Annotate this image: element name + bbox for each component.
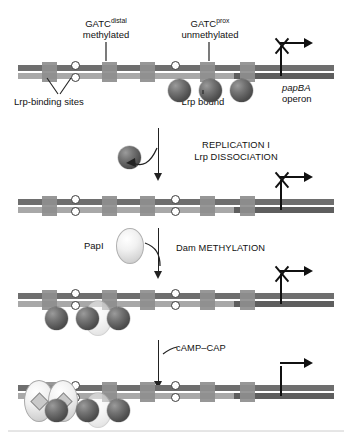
step-3-arrow-shaft — [158, 340, 159, 384]
gatc-distal-superscript: distal — [111, 17, 127, 24]
lrp-protein-r1-3 — [230, 79, 253, 102]
lrp-site-4 — [200, 290, 215, 310]
lrp-site-3 — [140, 290, 155, 310]
gatc-distal-top-circle — [71, 289, 80, 298]
gatc-prox-bottom-circle — [171, 301, 180, 310]
promoter-stem — [280, 274, 282, 304]
lrp-binding-sites-label: Lrp-binding sites — [14, 96, 84, 107]
step-1-arrow-head — [154, 173, 162, 181]
gatc-prox-name: GATC — [191, 18, 217, 29]
lrp-site-2 — [102, 62, 117, 82]
promoter-silenced-row-3 — [280, 270, 324, 304]
promoter-arm — [280, 362, 306, 364]
gatc-prox-state: unmethylated — [181, 29, 238, 40]
gatc-distal-top-circle — [71, 195, 80, 204]
step-label-methylation: Dam METHYLATION — [176, 243, 296, 255]
lrp-protein-r4-1 — [45, 399, 68, 422]
gatc-prox-bottom-circle — [171, 207, 180, 216]
figure-canvas: GATCdistal methylated GATCprox unmethyla… — [0, 0, 352, 436]
gatc-prox-superscript: prox — [216, 17, 229, 24]
gatc-prox-bottom-circle — [171, 393, 180, 402]
step-2-arrow-shaft — [158, 228, 159, 274]
lrp-protein-r3-2 — [76, 307, 99, 330]
gatc-distal-label: GATCdistal methylated — [58, 18, 154, 40]
lrp-site-5 — [240, 290, 255, 310]
gatc-prox-top-circle — [171, 61, 180, 70]
step-1-line-2: Lrp DISSOCIATION — [194, 152, 278, 162]
lrp-site-4 — [200, 382, 215, 402]
gatc-distal-bottom-circle — [71, 73, 80, 82]
promoter-arrowhead — [304, 266, 313, 276]
lrp-site-1 — [42, 62, 57, 82]
camp-cap-leader — [163, 347, 177, 354]
promoter-arrowhead — [304, 172, 313, 182]
promoter-arrowhead — [304, 38, 313, 48]
lrp-protein-r4-2 — [76, 399, 99, 422]
gatc-distal-name: GATC — [85, 18, 111, 29]
operon-name: papBA — [282, 82, 311, 93]
promoter-arrowhead — [304, 358, 313, 368]
lrp-site-2 — [102, 196, 117, 216]
papi-protein — [116, 228, 144, 264]
gatc-distal-bottom-circle — [71, 301, 80, 310]
lrp-protein-r4-3 — [107, 399, 130, 422]
lrp-protein-dissociated — [118, 146, 141, 169]
promoter-stem — [280, 46, 282, 76]
lrp-site-3 — [140, 196, 155, 216]
step-label-camp-cap: cAMP–CAP — [176, 343, 266, 355]
operon-word: operon — [282, 93, 312, 104]
gatc-prox-label: GATCprox unmethylated — [158, 18, 262, 40]
lrp-site-3 — [140, 382, 155, 402]
gatc-distal-bottom-circle — [71, 207, 80, 216]
gatc-prox-top-circle — [171, 381, 180, 390]
papi-label: PapI — [84, 240, 104, 251]
lrp-protein-r3-1 — [45, 307, 68, 330]
gatc-distal-state: methylated — [83, 29, 129, 40]
lrp-site-1 — [42, 196, 57, 216]
lrp-site-5 — [240, 196, 255, 216]
lrp-site-5 — [240, 382, 255, 402]
promoter-active-row-4 — [280, 362, 324, 396]
step-2-arrow-head — [154, 271, 162, 279]
step-label-replication: REPLICATION I Lrp DISSOCIATION — [168, 140, 304, 163]
step-1-arrow-shaft — [158, 128, 159, 176]
lrp-protein-r3-3 — [107, 307, 130, 330]
gatc-prox-top-circle — [171, 289, 180, 298]
promoter-stem — [280, 366, 282, 396]
promoter-silenced-row-2 — [280, 176, 324, 210]
gatc-distal-top-circle — [71, 61, 80, 70]
lrp-site-3 — [140, 62, 155, 82]
promoter-silenced-row-1 — [280, 42, 324, 76]
operon-label: papBA operon — [282, 82, 312, 104]
step-1-line-1: REPLICATION I — [202, 140, 270, 150]
lrp-protein-r1-1 — [168, 79, 191, 102]
lrp-protein-r1-2 — [199, 79, 222, 102]
lrp-site-4 — [200, 196, 215, 216]
gatc-prox-top-circle — [171, 195, 180, 204]
promoter-stem — [280, 180, 282, 210]
